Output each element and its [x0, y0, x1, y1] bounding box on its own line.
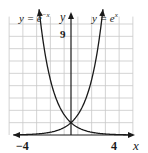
curve-e-x [13, 9, 103, 135]
label-e-neg-x: y = e−x [19, 12, 50, 24]
label-e-x: y = ex [92, 12, 118, 24]
y-axis-arrow-icon [68, 12, 74, 19]
curve-e-neg-x [39, 9, 129, 135]
x-tick-neg4: −4 [16, 140, 29, 152]
y-axis-label: y [60, 11, 65, 23]
x-axis-label: x [133, 139, 139, 152]
y-tick-9: 9 [60, 29, 66, 40]
x-tick-4: 4 [111, 140, 117, 152]
